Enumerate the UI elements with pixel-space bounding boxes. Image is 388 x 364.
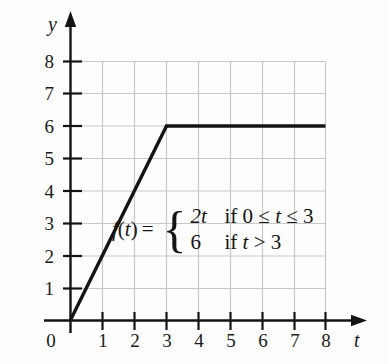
y-tick-label-8: 8 xyxy=(36,52,54,71)
x-tick-label-1: 1 xyxy=(93,331,113,350)
y-axis xyxy=(65,11,76,333)
case-2-gt: > xyxy=(248,230,270,254)
x-tick-label-2: 2 xyxy=(125,331,145,350)
x-tick-label-3: 3 xyxy=(157,331,177,350)
case-row-second: 6 if t > 3 xyxy=(191,232,314,253)
y-tick-label-1: 1 xyxy=(36,279,54,298)
case-1-le-second: ≤ xyxy=(286,204,298,228)
y-tick-label-6: 6 xyxy=(36,117,54,136)
x-tick-label-7: 7 xyxy=(285,331,305,350)
x-axis-label: t xyxy=(354,330,360,350)
piecewise-function-figure: y t 8 7 6 5 4 3 2 1 0 1 2 3 4 5 6 7 8 f(… xyxy=(0,0,388,364)
case-1-le-first: ≤ xyxy=(258,204,270,228)
plot-canvas xyxy=(0,0,388,364)
y-tick-label-2: 2 xyxy=(36,247,54,266)
case-2-bound: 3 xyxy=(271,230,282,254)
y-axis-label: y xyxy=(48,14,57,34)
open-paren: ( xyxy=(118,217,125,241)
equals-sign: = xyxy=(138,217,158,241)
y-tick-label-4: 4 xyxy=(36,182,54,201)
case-1-if: if 0 xyxy=(225,204,259,228)
case-1-value: 2t xyxy=(191,206,225,227)
case-row-first: 2t if 0 ≤ t ≤ 3 xyxy=(191,206,314,227)
x-axis xyxy=(44,315,367,326)
y-tick-label-5: 5 xyxy=(36,149,54,168)
case-2-value: 6 xyxy=(191,232,225,253)
case-1-condition: if 0 ≤ t ≤ 3 xyxy=(225,206,314,227)
y-tick-label-7: 7 xyxy=(36,84,54,103)
cases-block: 2t if 0 ≤ t ≤ 3 6 if t > 3 xyxy=(191,206,314,253)
x-tick-label-4: 4 xyxy=(189,331,209,350)
x-tick-label-5: 5 xyxy=(221,331,241,350)
grid-horizontal-lines xyxy=(70,62,325,289)
case-1-variable: t xyxy=(270,204,286,228)
close-paren: ) xyxy=(131,217,138,241)
case-2-if: if xyxy=(225,230,243,254)
x-tick-label-6: 6 xyxy=(253,331,273,350)
case-1-bound: 3 xyxy=(298,204,314,228)
cases-brace: { xyxy=(161,214,191,245)
equation-left-hand-side: f(t)= xyxy=(112,219,161,240)
case-2-condition: if t > 3 xyxy=(225,232,282,253)
y-axis-tick-marks xyxy=(63,62,82,289)
function-equation-annotation: f(t)= { 2t if 0 ≤ t ≤ 3 6 if t > 3 xyxy=(112,206,314,253)
x-tick-label-0: 0 xyxy=(41,331,61,350)
x-tick-label-8: 8 xyxy=(316,331,336,350)
y-tick-label-3: 3 xyxy=(36,214,54,233)
